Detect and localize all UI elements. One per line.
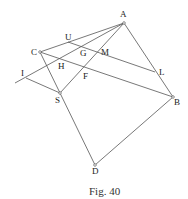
- segment-IS: [26, 78, 60, 93]
- label-G: G: [80, 48, 87, 58]
- label-C: C: [31, 47, 37, 57]
- segment-CB: [40, 52, 173, 97]
- label-M: M: [101, 47, 109, 57]
- label-A: A: [120, 9, 127, 19]
- label-D: D: [92, 166, 99, 176]
- label-B: B: [174, 97, 180, 107]
- label-H: H: [58, 61, 65, 71]
- figure-caption: Fig. 40: [89, 185, 121, 197]
- segment-SD: [60, 93, 95, 165]
- segment-DB: [95, 97, 173, 165]
- label-L: L: [159, 67, 165, 77]
- label-F: F: [83, 71, 88, 81]
- label-S: S: [55, 95, 60, 105]
- point-A: [123, 22, 126, 25]
- segment-AB: [124, 23, 173, 97]
- point-S: [59, 92, 62, 95]
- geometry-figure: A U C G M H L I F S B D Fig. 40: [0, 0, 188, 199]
- label-U: U: [65, 32, 72, 42]
- point-C: [39, 51, 42, 54]
- label-I: I: [21, 68, 24, 78]
